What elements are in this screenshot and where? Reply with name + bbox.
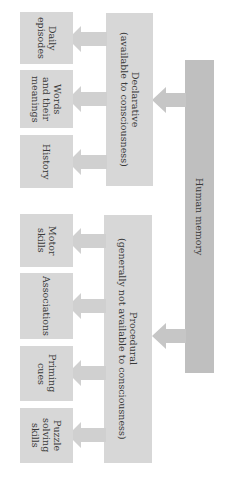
human-memory-label: Human memory [185,60,214,373]
declarative-label: Declarative (available to consciousness) [106,13,153,186]
history-label: History [20,135,73,188]
arrow-to-declarative-icon [150,84,186,116]
daily-episodes-label: Daily episodes [20,12,73,64]
words-and-meanings-label: Words and their meanings [20,70,73,128]
arrow-to-procedural-icon [150,320,186,352]
motor-skills-label: Motor skills [20,214,73,267]
procedural-label: Procedural (generally not available to c… [104,215,152,463]
associations-label: Associations [20,273,73,339]
puzzle-solving-label: Puzzle solving skills [20,408,73,463]
priming-cues-label: Priming cues [20,346,73,401]
